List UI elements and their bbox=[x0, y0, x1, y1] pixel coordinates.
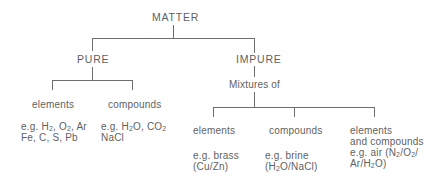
pure-elements-example-2: Fe, C, S, Pb bbox=[21, 132, 78, 143]
pure-elements-example-1: e.g. H2, O2, Ar bbox=[21, 121, 87, 132]
connector-matter-down bbox=[173, 25, 174, 38]
connector-to-impure bbox=[254, 38, 255, 53]
mix-both-example-2: Ar/H2O) bbox=[350, 158, 386, 169]
node-pure: PURE bbox=[77, 54, 109, 65]
connector-to-pure bbox=[92, 38, 93, 51]
connector-to-pure-compounds bbox=[132, 80, 133, 90]
node-matter: MATTER bbox=[152, 12, 199, 23]
connector-mixtures-down bbox=[254, 92, 255, 107]
connector-to-mix-elements bbox=[213, 107, 214, 117]
pure-compounds-example-2: NaCl bbox=[101, 132, 124, 143]
mix-compounds-example-1: e.g. brine bbox=[265, 150, 309, 161]
node-pure-compounds: compounds bbox=[108, 99, 162, 110]
node-mix-elements: elements bbox=[193, 125, 235, 136]
connector-impure-down bbox=[254, 66, 255, 77]
connector-pure-branch bbox=[52, 80, 133, 81]
node-impure: IMPURE bbox=[236, 54, 282, 65]
node-mixtures-of: Mixtures of bbox=[229, 79, 280, 90]
node-pure-elements: elements bbox=[32, 99, 74, 110]
mix-both-example-1: e.g. air (N2/O2/ bbox=[350, 147, 418, 158]
connector-pure-down bbox=[92, 67, 93, 80]
node-mix-compounds: compounds bbox=[269, 125, 323, 136]
node-mix-both-line2: and compounds bbox=[350, 136, 424, 147]
pure-compounds-example-1: e.g. H2O, CO2 bbox=[101, 121, 166, 132]
connector-to-mix-compounds bbox=[294, 107, 295, 117]
mix-elements-example-1: e.g. brass bbox=[193, 150, 239, 161]
connector-to-pure-elements bbox=[52, 80, 53, 90]
mix-elements-example-2: (Cu/Zn) bbox=[193, 161, 228, 172]
connector-matter-branch bbox=[92, 38, 255, 39]
connector-to-mix-both bbox=[374, 107, 375, 117]
mix-compounds-example-2: (H2O/NaCl) bbox=[265, 161, 318, 172]
node-mix-both: elements bbox=[350, 125, 392, 136]
